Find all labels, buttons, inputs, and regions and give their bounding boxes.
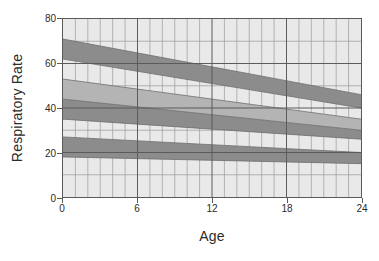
x-tick-label-24: 24 [342, 203, 379, 214]
y-tick-label-0: 0 [16, 193, 56, 204]
plot-svg [63, 19, 361, 197]
y-tick-label-20: 20 [16, 148, 56, 159]
x-tick-label-12: 12 [192, 203, 232, 214]
respiratory-rate-chart: Respiratory Rate Age 0 20 40 60 80 0 6 1… [0, 0, 379, 261]
plot-area [62, 18, 362, 198]
x-tick-label-0: 0 [42, 203, 82, 214]
x-tick-mark-0 [62, 198, 63, 203]
x-tick-mark-6 [137, 198, 138, 203]
x-tick-mark-18 [287, 198, 288, 203]
x-axis-title: Age [62, 228, 362, 244]
y-tick-label-80: 80 [16, 13, 56, 24]
x-tick-mark-12 [212, 198, 213, 203]
x-tick-label-18: 18 [267, 203, 307, 214]
major-gridlines [63, 19, 361, 197]
x-tick-label-6: 6 [117, 203, 157, 214]
y-tick-label-40: 40 [16, 103, 56, 114]
y-tick-label-60: 60 [16, 58, 56, 69]
x-tick-mark-24 [362, 198, 363, 203]
